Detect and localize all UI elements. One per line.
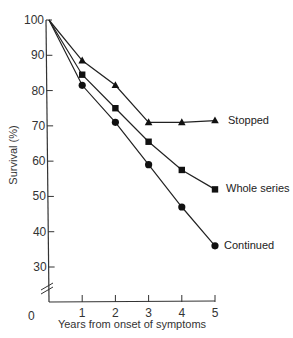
y-tick-label: 90: [31, 48, 45, 62]
data-point: [112, 81, 120, 88]
series-label-continued: Continued: [224, 239, 274, 251]
data-point: [112, 119, 119, 126]
data-point: [178, 203, 185, 210]
x-ticks: 12345: [79, 295, 219, 320]
y-axis-break-mark: [41, 287, 53, 294]
y-tick-label: 30: [33, 260, 47, 274]
y-axis-break-mark: [41, 283, 53, 290]
y-tick-label: 60: [32, 154, 46, 168]
x-origin-label: 0: [28, 309, 35, 323]
survival-chart: 12345 30405060708090100 0 Years from ons…: [0, 0, 293, 338]
data-point: [145, 161, 152, 168]
x-axis: [49, 301, 215, 302]
axes: 12345 30405060708090100: [24, 13, 219, 320]
series-stopped: [49, 20, 219, 125]
series-lines: [49, 20, 219, 249]
data-point: [211, 242, 218, 249]
data-point: [179, 167, 185, 173]
data-point: [145, 139, 151, 145]
y-tick-label: 50: [33, 189, 47, 203]
data-point: [212, 186, 218, 192]
y-tick-label: 100: [24, 13, 44, 27]
data-point: [79, 71, 85, 77]
data-point: [79, 82, 86, 89]
y-ticks: 30405060708090100: [24, 13, 55, 274]
y-tick-label: 70: [32, 119, 46, 133]
series-continued: [49, 20, 219, 249]
x-tick-label: 5: [212, 306, 219, 320]
y-tick-label: 40: [33, 225, 47, 239]
series-label-stopped: Stopped: [228, 114, 269, 126]
y-axis-title: Survival (%): [7, 125, 19, 184]
series-label-whole-series: Whole series: [226, 182, 290, 194]
y-tick-label: 80: [31, 84, 45, 98]
data-point: [112, 105, 118, 111]
x-axis-title: Years from onset of symptoms: [58, 318, 207, 330]
data-point: [211, 117, 219, 124]
